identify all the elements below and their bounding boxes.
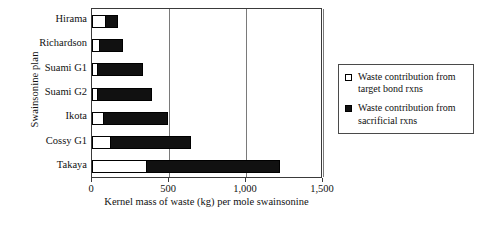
y-tick-label-6: Takaya — [14, 160, 87, 171]
legend-entry-target-bond: Waste contribution from target bond rxns — [345, 71, 466, 95]
y-tick-label-1: Richardson — [14, 38, 87, 49]
bar-segment-sacrificial — [105, 15, 118, 28]
legend: Waste contribution from target bond rxns… — [338, 64, 474, 134]
bar-segment-sacrificial — [99, 39, 124, 52]
gridline-1500 — [323, 9, 324, 177]
x-axis-ticks: 05001,0001,500 — [91, 178, 322, 194]
y-tick-label-5: Cossy G1 — [14, 136, 87, 147]
x-axis-title: Kernel mass of waste (kg) per mole swain… — [91, 196, 322, 207]
bar-segment-target-bond — [92, 136, 111, 149]
bar-segment-sacrificial — [97, 88, 152, 101]
y-axis-tick-labels: Hirama Richardson Suami G1 Suami G2 Ikot… — [14, 8, 87, 178]
chart-figure: Swainsonine plan Hirama Richardson Suami… — [0, 0, 483, 228]
bar-row — [92, 39, 122, 52]
bar-row — [92, 160, 279, 173]
x-tick-label-500: 500 — [160, 183, 176, 194]
legend-label-target-bond: Waste contribution from target bond rxns — [358, 71, 466, 95]
bar-segment-sacrificial — [110, 136, 191, 149]
x-tick-label-0: 0 — [88, 183, 93, 194]
x-tick-mark-0 — [91, 178, 92, 182]
y-tick-label-0: Hirama — [14, 14, 87, 25]
y-tick-label-2: Suami G1 — [14, 63, 87, 74]
bar-series-group — [92, 9, 321, 177]
plot-area — [91, 8, 322, 178]
legend-swatch-light-icon — [345, 74, 352, 81]
bar-row — [92, 88, 151, 101]
x-tick-mark-1500 — [322, 178, 323, 182]
x-tick-label-1000: 1,000 — [233, 183, 257, 194]
x-tick-mark-500 — [168, 178, 169, 182]
bar-segment-sacrificial — [146, 160, 280, 173]
bar-row — [92, 112, 167, 125]
bar-segment-sacrificial — [97, 63, 143, 76]
bar-segment-target-bond — [92, 160, 147, 173]
bar-row — [92, 15, 117, 28]
x-tick-label-1500: 1,500 — [310, 183, 334, 194]
bar-row — [92, 63, 142, 76]
legend-entry-sacrificial: Waste contribution from sacrificial rxns — [345, 102, 466, 126]
y-tick-label-4: Ikota — [14, 111, 87, 122]
y-tick-label-3: Suami G2 — [14, 87, 87, 98]
bar-row — [92, 136, 190, 149]
legend-label-sacrificial: Waste contribution from sacrificial rxns — [358, 102, 466, 126]
bar-segment-target-bond — [92, 15, 106, 28]
legend-swatch-dark-icon — [345, 105, 352, 112]
x-tick-mark-1000 — [245, 178, 246, 182]
bar-segment-sacrificial — [103, 112, 168, 125]
